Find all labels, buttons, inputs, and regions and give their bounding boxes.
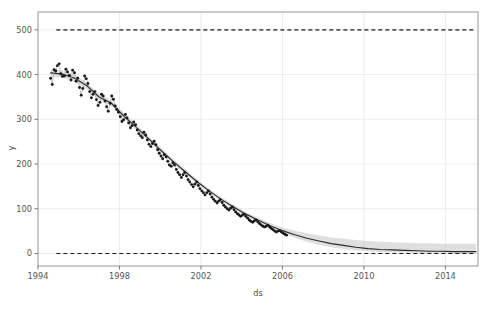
y-tick-label: 300 (16, 114, 32, 124)
x-tick-label: 2006 (272, 271, 293, 281)
x-tick-label: 1998 (109, 271, 130, 281)
y-tick-label: 200 (16, 159, 32, 169)
y-tick-label: 100 (16, 204, 32, 214)
y-tick-label: 500 (16, 25, 32, 35)
chart-canvas: 199419982002200620102014 010020030040050… (0, 0, 494, 309)
matplotlib-figure: 199419982002200620102014 010020030040050… (0, 0, 494, 309)
axes-background (38, 12, 478, 266)
x-tick-label: 2002 (191, 271, 212, 281)
x-tick-label: 2010 (354, 271, 375, 281)
x-tick-label: 2014 (435, 271, 456, 281)
y-axis-title: y (6, 145, 16, 150)
y-tick-label: 0 (27, 248, 32, 258)
x-axis-title: ds (253, 288, 262, 298)
y-tick-label: 400 (16, 70, 32, 80)
x-tick-label: 1994 (28, 271, 49, 281)
